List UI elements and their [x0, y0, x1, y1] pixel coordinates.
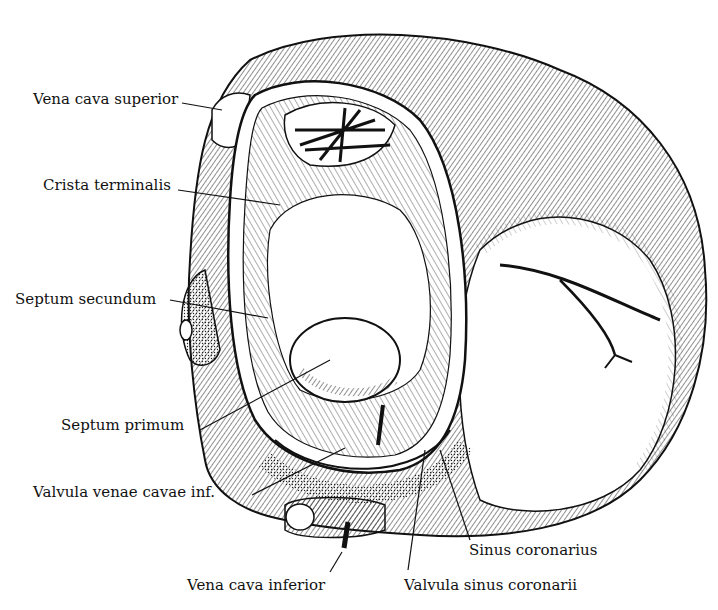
- label-septum-secundum: Septum secundum: [15, 292, 156, 307]
- label-valvula-sinus-coronarii: Valvula sinus coronarii: [404, 578, 577, 593]
- label-sinus-coronarius: Sinus coronarius: [469, 543, 597, 558]
- label-vena-cava-superior: Vena cava superior: [33, 92, 178, 107]
- label-crista-terminalis: Crista terminalis: [43, 178, 171, 193]
- label-septum-primum: Septum primum: [61, 418, 184, 433]
- label-valvula-venae-cavae-inf: Valvula venae cavae inf.: [33, 485, 215, 500]
- label-vena-cava-inferior: Vena cava inferior: [187, 578, 325, 593]
